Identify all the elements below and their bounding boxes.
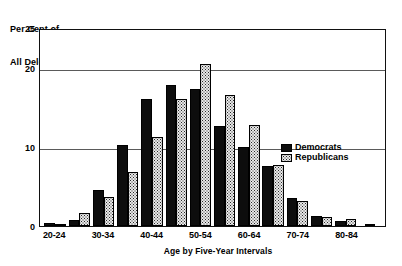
x-tick-cell: 50-54 xyxy=(188,230,212,244)
x-tick-cell xyxy=(164,230,188,244)
y-tick-label-20: 20 xyxy=(25,65,35,74)
bar-democrats-80-84 xyxy=(335,221,346,226)
bar-republicans-50-54 xyxy=(200,64,211,226)
x-tick-cell: 40-44 xyxy=(139,230,163,244)
bar-republicans-75-79 xyxy=(322,217,333,226)
bar-democrats-70-74 xyxy=(287,198,298,226)
bar-democrats-50-54 xyxy=(190,89,201,226)
bar-republicans-40-44 xyxy=(152,137,163,226)
bar-democrats-35-39 xyxy=(117,145,128,226)
legend-item-democrats: Democrats xyxy=(281,143,349,152)
x-tick-label-70-74: 70-74 xyxy=(287,230,310,240)
y-tick-label-25: 25 xyxy=(25,25,35,34)
x-tick-cell xyxy=(359,230,383,244)
bar-republicans-30-34 xyxy=(104,197,115,226)
x-tick-label-40-44: 40-44 xyxy=(140,230,163,240)
bar-republicans-65-69 xyxy=(273,165,284,226)
legend-label-republicans: Republicans xyxy=(295,153,349,162)
bar-democrats-55-59 xyxy=(214,126,225,226)
bar-group xyxy=(188,30,212,226)
x-tick-cell: 60-64 xyxy=(237,230,261,244)
x-tick-cell xyxy=(261,230,285,244)
x-tick-cell xyxy=(66,230,90,244)
bar-republicans-80-84 xyxy=(346,219,357,226)
bar-group xyxy=(309,30,333,226)
bar-republicans-60-64 xyxy=(249,125,260,226)
x-tick-cell xyxy=(213,230,237,244)
bar-republicans-35-39 xyxy=(128,172,139,226)
x-axis-title: Age by Five-Year Intervals xyxy=(0,246,402,256)
legend-swatch-democrats xyxy=(281,144,292,152)
y-tick-label-10: 10 xyxy=(25,144,35,153)
bar-group xyxy=(261,30,285,226)
x-tick-label-50-54: 50-54 xyxy=(189,230,212,240)
x-tick-cell xyxy=(115,230,139,244)
y-axis-tick-labels: 0102025 xyxy=(0,0,35,266)
x-tick-label-30-34: 30-34 xyxy=(92,230,115,240)
legend-swatch-republicans xyxy=(281,154,292,162)
legend-label-democrats: Democrats xyxy=(295,143,342,152)
bar-group xyxy=(140,30,164,226)
bar-republicans-25-29 xyxy=(79,213,90,226)
bar-republicans-55-59 xyxy=(225,95,236,226)
bar-democrats-85-89 xyxy=(365,224,376,226)
bar-group xyxy=(91,30,115,226)
bar-democrats-25-29 xyxy=(69,220,80,226)
bar-group xyxy=(213,30,237,226)
bar-group xyxy=(334,30,358,226)
bar-democrats-20-24 xyxy=(44,223,55,226)
bar-democrats-65-69 xyxy=(262,166,273,226)
x-tick-cell: 80-84 xyxy=(334,230,358,244)
legend-item-republicans: Republicans xyxy=(281,153,349,162)
plot-area: Democrats Republicans xyxy=(39,29,386,227)
bar-chart: Per Cent of All Delegates 0102025 Democr… xyxy=(0,0,402,266)
x-tick-cell: 20-24 xyxy=(42,230,66,244)
x-tick-cell: 30-34 xyxy=(91,230,115,244)
bar-republicans-20-24 xyxy=(55,224,66,226)
x-tick-label-80-84: 80-84 xyxy=(335,230,358,240)
bar-group xyxy=(358,30,382,226)
x-tick-label-20-24: 20-24 xyxy=(43,230,66,240)
bar-groups xyxy=(40,30,385,226)
y-tick-label-0: 0 xyxy=(30,223,35,232)
bar-group xyxy=(237,30,261,226)
bar-group xyxy=(285,30,309,226)
bar-democrats-40-44 xyxy=(141,99,152,227)
bar-democrats-45-49 xyxy=(166,85,177,226)
x-axis-tick-labels: 20-2430-3440-4450-5460-6470-7480-84 xyxy=(39,230,386,244)
bar-group xyxy=(164,30,188,226)
x-tick-cell xyxy=(310,230,334,244)
x-tick-cell: 70-74 xyxy=(286,230,310,244)
bar-republicans-70-74 xyxy=(297,201,308,226)
bar-group xyxy=(43,30,67,226)
bar-group xyxy=(116,30,140,226)
bar-democrats-75-79 xyxy=(311,216,322,226)
bar-democrats-60-64 xyxy=(238,147,249,226)
x-tick-label-60-64: 60-64 xyxy=(238,230,261,240)
bar-group xyxy=(67,30,91,226)
bar-republicans-45-49 xyxy=(176,99,187,226)
legend: Democrats Republicans xyxy=(281,143,349,162)
bar-democrats-30-34 xyxy=(93,190,104,226)
